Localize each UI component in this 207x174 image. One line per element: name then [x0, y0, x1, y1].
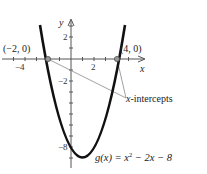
x-axis-label: x	[139, 63, 145, 74]
point-label-right: (4, 0)	[120, 43, 142, 55]
y-tick-label-neg8: −8	[58, 142, 68, 152]
y-tick-label-neg2: −2	[58, 76, 68, 86]
x-tick-label-neg4: −4	[15, 62, 25, 72]
function-label-suffix: − 2x − 8	[132, 152, 173, 163]
function-label-prefix: g(x) = x	[95, 152, 129, 164]
parabola-curve	[40, 25, 125, 158]
annotation-rest: -intercepts	[130, 93, 172, 104]
parabola-chart: (−2, 0) (4, 0) −4 2 x y 2 −2 −8 x-interc…	[0, 0, 207, 174]
x-tick-label-2: 2	[91, 62, 96, 72]
annotation-x-intercepts: x-intercepts	[125, 93, 173, 104]
y-axis-label: y	[58, 17, 64, 28]
y-tick-label-2: 2	[63, 32, 68, 42]
intercept-point-left	[45, 56, 50, 61]
intercept-point-right	[114, 56, 119, 61]
point-label-left: (−2, 0)	[3, 43, 30, 55]
function-label: g(x) = x2 − 2x − 8	[95, 151, 173, 164]
